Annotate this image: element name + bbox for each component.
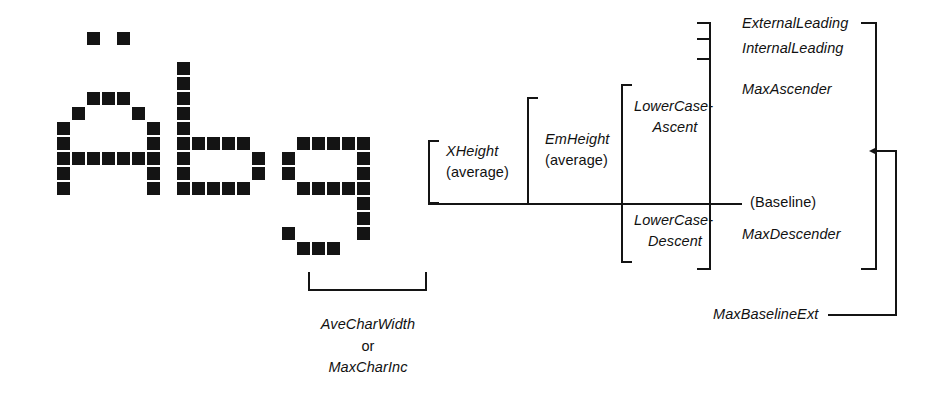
glyph-pixel: [357, 227, 370, 240]
glyph-pixel: [222, 137, 235, 150]
glyph-pixel: [117, 92, 130, 105]
avecharwidth-bracket-left-arm: [308, 272, 310, 291]
lowercase-descent-label-line2: Descent: [634, 233, 716, 249]
glyph-pixel: [87, 32, 100, 45]
glyph-pixel: [177, 107, 190, 120]
emheight-label: EmHeight: [545, 131, 609, 147]
glyph-pixel: [282, 227, 295, 240]
glyph-pixel: [357, 137, 370, 150]
glyph-pixel: [342, 182, 355, 195]
baseline-label: (Baseline): [750, 194, 816, 210]
glyph-pixel: [132, 152, 145, 165]
glyph-pixel: [327, 242, 340, 255]
xheight-bracket-top-arm: [428, 140, 439, 142]
glyph-pixel: [147, 152, 160, 165]
glyph-pixel: [357, 167, 370, 180]
glyph-pixel: [192, 182, 205, 195]
glyph-pixel: [177, 62, 190, 75]
baseline-rule: [428, 203, 742, 205]
external-leading-label: ExternalLeading: [742, 15, 848, 31]
lowercase-ascent-label-line1: LowerCase-: [634, 98, 713, 114]
lowercase-ascent-label-line2: Ascent: [634, 119, 716, 135]
glyph-pixel: [327, 137, 340, 150]
max-ascender-label: MaxAscender: [742, 81, 832, 97]
glyph-pixel: [132, 107, 145, 120]
glyph-pixel: [282, 167, 295, 180]
max-char-inc-label: MaxCharInc: [278, 359, 458, 375]
internal-leading-tick: [697, 38, 711, 40]
maxbaselineext-bracket-bottom-arm: [861, 268, 876, 270]
glyph-pixel: [57, 137, 70, 150]
xheight-bracket-stem: [428, 140, 430, 204]
max-baseline-ext-label: MaxBaselineExt: [713, 306, 818, 322]
maxbaselineext-arrow-head-icon: [869, 147, 877, 155]
glyph-pixel: [102, 152, 115, 165]
glyph-pixel: [177, 182, 190, 195]
glyph-pixel: [177, 122, 190, 135]
font-metrics-diagram: XHeight (average) EmHeight (average) Low…: [0, 0, 939, 400]
glyph-pixel: [327, 182, 340, 195]
glyph-pixel: [117, 152, 130, 165]
glyph-pixel: [147, 167, 160, 180]
glyph-pixel: [177, 77, 190, 90]
emheight-bracket-top-arm: [527, 97, 538, 99]
glyph-pixel: [237, 182, 250, 195]
emheight-average-label: (average): [545, 152, 608, 168]
glyph-pixel: [297, 137, 310, 150]
glyph-pixel: [192, 137, 205, 150]
glyph-pixel: [57, 122, 70, 135]
ave-char-width-or-label: or: [278, 338, 458, 354]
avecharwidth-bracket-right-arm: [425, 272, 427, 291]
glyph-pixel: [297, 182, 310, 195]
glyph-pixel: [177, 167, 190, 180]
maxbaselineext-bracket-top-arm: [861, 22, 876, 24]
glyph-pixel: [177, 137, 190, 150]
glyph-pixel: [297, 242, 310, 255]
glyph-pixel: [357, 197, 370, 210]
external-leading-tick: [697, 22, 711, 24]
emheight-bracket-stem: [527, 97, 529, 204]
glyph-pixel: [222, 182, 235, 195]
glyph-pixel: [147, 122, 160, 135]
maxbaselineext-leader-horizontal: [828, 314, 897, 316]
glyph-pixel: [312, 182, 325, 195]
glyph-pixel: [312, 137, 325, 150]
glyph-pixel: [72, 107, 85, 120]
maxbaselineext-bracket-stem: [875, 22, 877, 270]
glyph-pixel: [357, 182, 370, 195]
glyph-pixel: [102, 92, 115, 105]
glyph-pixel: [357, 152, 370, 165]
maxascender-bracket-bottom-arm: [697, 268, 711, 270]
maxascender-top-tick: [697, 58, 711, 60]
glyph-pixel: [87, 92, 100, 105]
avecharwidth-bracket-base: [308, 289, 427, 291]
glyph-pixel: [357, 212, 370, 225]
lowercase-bracket-stem: [621, 84, 623, 263]
xheight-label: XHeight: [446, 143, 498, 159]
glyph-pixel: [207, 182, 220, 195]
glyph-pixel: [147, 137, 160, 150]
glyph-pixel: [57, 182, 70, 195]
glyph-pixel: [147, 182, 160, 195]
glyph-pixel: [237, 137, 250, 150]
glyph-pixel: [252, 152, 265, 165]
glyph-pixel: [342, 137, 355, 150]
maxbaselineext-arrow-shaft: [875, 150, 897, 152]
xheight-average-label: (average): [446, 164, 509, 180]
glyph-pixel: [57, 167, 70, 180]
internal-leading-label: InternalLeading: [742, 40, 843, 56]
glyph-pixel: [87, 152, 100, 165]
glyph-pixel: [282, 152, 295, 165]
max-descender-label: MaxDescender: [742, 226, 841, 242]
glyph-pixel: [117, 32, 130, 45]
glyph-pixel: [312, 242, 325, 255]
lowercase-descent-label-line1: LowerCase-: [634, 212, 713, 228]
glyph-pixel: [177, 92, 190, 105]
glyph-pixel: [207, 137, 220, 150]
ave-char-width-label: AveCharWidth: [278, 316, 458, 332]
lowercase-bracket-bottom-arm: [621, 261, 632, 263]
lowercase-bracket-top-arm: [621, 84, 632, 86]
glyph-pixel: [252, 167, 265, 180]
glyph-pixel: [72, 152, 85, 165]
maxbaselineext-leader-vertical: [895, 150, 897, 316]
